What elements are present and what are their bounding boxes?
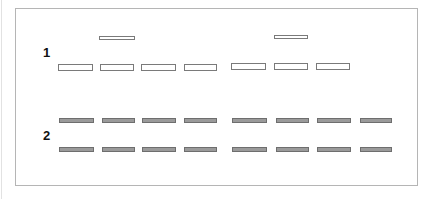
band-group2-15 <box>317 147 351 152</box>
band-group1-7 <box>231 63 266 70</box>
band-group2-13 <box>232 147 267 152</box>
band-group1-9 <box>316 63 350 70</box>
band-group2-5 <box>232 118 267 123</box>
band-group2-2 <box>102 118 135 123</box>
band-group2-10 <box>102 147 135 152</box>
band-group2-9 <box>59 147 94 152</box>
band-group2-14 <box>276 147 309 152</box>
group-label-1: 1 <box>43 46 50 59</box>
band-group2-8 <box>360 118 392 123</box>
band-group1-5 <box>141 64 176 71</box>
page-edge-line <box>1 0 2 199</box>
group-label-2: 2 <box>43 129 50 142</box>
band-group1-4 <box>100 64 134 71</box>
band-group1-8 <box>274 63 308 70</box>
band-group2-3 <box>142 118 176 123</box>
figure-frame <box>15 8 418 186</box>
band-group2-4 <box>184 118 217 123</box>
band-group2-6 <box>276 118 309 123</box>
band-group1-1 <box>99 36 135 40</box>
band-group2-16 <box>360 147 392 152</box>
band-group2-11 <box>142 147 176 152</box>
band-group2-7 <box>317 118 351 123</box>
band-group2-12 <box>184 147 217 152</box>
band-group1-6 <box>184 64 217 71</box>
band-group2-1 <box>59 118 94 123</box>
band-group1-2 <box>274 35 308 39</box>
band-group1-3 <box>58 64 93 71</box>
